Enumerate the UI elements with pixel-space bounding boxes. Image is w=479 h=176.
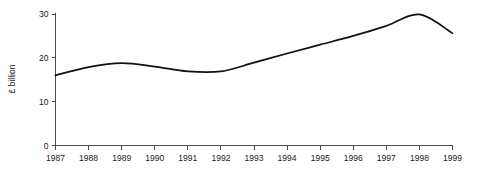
x-tick-label: 1995	[311, 153, 330, 163]
y-tick-label: 10	[39, 97, 49, 107]
y-tick-label: 20	[39, 53, 49, 63]
x-tick-label: 1991	[178, 153, 197, 163]
x-tick-label: 1996	[344, 153, 363, 163]
y-axis-title-group: £ billion	[7, 64, 17, 93]
x-tick-label: 1990	[145, 153, 164, 163]
plot-background	[0, 0, 479, 176]
chart-canvas: 0102030 19871988198919901991199219931994…	[0, 0, 479, 176]
y-tick-label: 0	[44, 141, 49, 151]
y-tick-label: 30	[39, 9, 49, 19]
x-tick-label: 1989	[112, 153, 131, 163]
line-chart: 0102030 19871988198919901991199219931994…	[0, 0, 479, 176]
x-tick-label: 1997	[377, 153, 396, 163]
x-tick-label: 1988	[79, 153, 98, 163]
y-axis-title: £ billion	[7, 64, 17, 93]
x-tick-label: 1999	[443, 153, 462, 163]
x-tick-label: 1992	[211, 153, 230, 163]
x-tick-label: 1994	[278, 153, 297, 163]
x-tick-label: 1987	[46, 153, 65, 163]
x-tick-label: 1993	[245, 153, 264, 163]
x-tick-label: 1998	[410, 153, 429, 163]
